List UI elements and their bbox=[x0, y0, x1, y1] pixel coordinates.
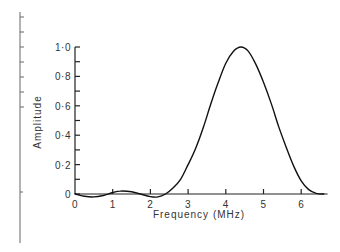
x-tick-label: 1 bbox=[110, 199, 116, 210]
amplitude-spectrum-chart: 00·20·40·60·81·0 0123456 Amplitude Frequ… bbox=[0, 0, 340, 252]
x-tick-label: 0 bbox=[72, 199, 78, 210]
x-axis bbox=[75, 189, 328, 194]
y-tick-label: 0·2 bbox=[55, 160, 71, 171]
y-tick-label: 1·0 bbox=[55, 42, 71, 53]
y-tick-label: 0·8 bbox=[55, 71, 71, 82]
left-margin-rule bbox=[20, 12, 24, 243]
x-axis-title: Frequency (MHz) bbox=[153, 209, 245, 220]
x-tick-label: 6 bbox=[298, 199, 304, 210]
x-tick-label: 5 bbox=[260, 199, 266, 210]
y-tick-label: 0·6 bbox=[55, 101, 71, 112]
y-axis bbox=[75, 47, 80, 194]
y-tick-label: 0 bbox=[65, 189, 71, 200]
amplitude-curve bbox=[75, 47, 324, 197]
y-tick-labels: 00·20·40·60·81·0 bbox=[55, 42, 71, 200]
y-axis-title: Amplitude bbox=[32, 95, 43, 148]
y-tick-label: 0·4 bbox=[55, 130, 71, 141]
